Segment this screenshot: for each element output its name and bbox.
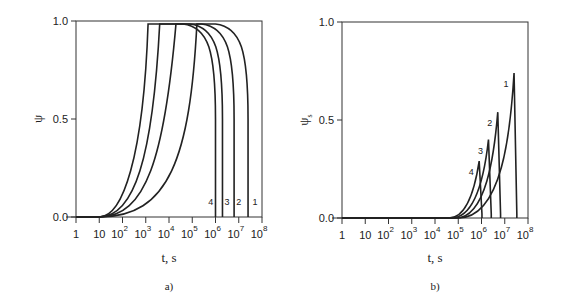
x-axis-title: t, s: [161, 250, 176, 265]
x-tick-label: 10: [359, 229, 371, 241]
y-tick-label: 1.0: [53, 15, 68, 27]
curve-2: [342, 112, 501, 218]
y-axis-title: ψ: [30, 115, 45, 123]
x-tick-label: 108: [517, 225, 534, 241]
x-tick-label: 105: [447, 225, 464, 241]
x-tick-label: 105: [181, 224, 198, 240]
x-tick-label: 103: [134, 224, 151, 240]
x-tick-label: 1: [339, 229, 345, 241]
curve-label: 1: [504, 79, 509, 89]
y-tick-label: 1.0: [319, 16, 334, 28]
figure: 1101021031041051061071080.00.51.0t, sψa)…: [0, 0, 565, 308]
curve-label: 4: [208, 197, 213, 207]
panel-label: b): [430, 280, 440, 293]
y-tick-label: 0.0: [53, 211, 68, 223]
curve-label: 4: [469, 167, 474, 177]
curve-3: [342, 140, 491, 218]
curve-label: 2: [236, 197, 241, 207]
panel-a: 1101021031041051061071080.00.51.0t, sψa)…: [30, 15, 268, 293]
x-tick-label: 107: [227, 224, 244, 240]
panel-label: a): [165, 280, 174, 293]
x-tick-label: 106: [470, 225, 487, 241]
x-tick-label: 104: [158, 224, 175, 240]
x-tick-label: 108: [251, 224, 268, 240]
y-tick-label: 0.5: [53, 113, 68, 125]
x-axis-title: t, s: [427, 250, 442, 265]
x-tick-label: 10: [93, 228, 105, 240]
curve-3: [76, 24, 222, 217]
x-tick-label: 102: [111, 224, 128, 240]
x-tick-label: 106: [204, 224, 221, 240]
panel-b: 1101021031041051061071080.00.51.0t, sψsb…: [296, 16, 534, 293]
x-tick-label: 1: [73, 228, 79, 240]
curve-label: 2: [487, 118, 492, 128]
y-axis-title: ψs: [296, 114, 314, 125]
x-tick-label: 102: [377, 225, 394, 241]
x-tick-label: 104: [424, 225, 441, 241]
x-tick-label: 107: [493, 225, 510, 241]
curve-label: 3: [478, 146, 483, 156]
y-tick-label: 0.0: [319, 212, 334, 224]
curve-label: 3: [225, 197, 230, 207]
x-tick-label: 103: [400, 225, 417, 241]
curve-label: 1: [253, 197, 258, 207]
y-tick-label: 0.5: [319, 114, 334, 126]
curve-4: [342, 161, 482, 218]
